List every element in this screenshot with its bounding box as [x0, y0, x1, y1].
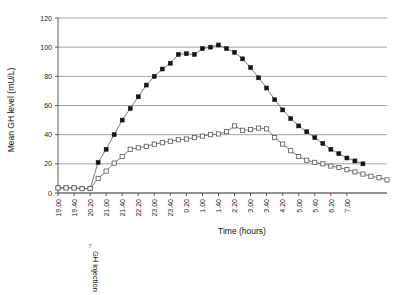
x-axis-tick-labels: 19.0019.4020.2021.0021.4022.2023.0023.40… — [55, 193, 351, 217]
y-tick-label: 0 — [48, 190, 52, 197]
data-point-open-squares — [240, 128, 244, 132]
data-point-filled-squares — [152, 74, 156, 78]
data-point-filled-squares — [200, 47, 204, 51]
data-point-open-squares — [289, 149, 293, 153]
x-tick-label: 2.20 — [231, 199, 238, 213]
data-point-open-squares — [176, 138, 180, 142]
gh-level-chart: 020406080100120 19.0019.4020.2021.0021.4… — [0, 0, 404, 295]
y-tick-label: 60 — [44, 102, 52, 109]
data-point-open-squares — [160, 141, 164, 145]
x-tick-label: 19.00 — [55, 199, 62, 217]
gh-injection-arrow-icon: ↑ — [88, 241, 92, 250]
data-point-filled-squares — [96, 160, 100, 164]
x-tick-label: 7.00 — [344, 199, 351, 213]
data-point-open-squares — [321, 162, 325, 166]
data-point-open-squares — [192, 135, 196, 139]
y-axis-tick-labels: 020406080100120 — [40, 15, 58, 197]
x-tick-label: 1.40 — [215, 199, 222, 213]
data-point-open-squares — [208, 133, 212, 137]
x-tick-label: 23.00 — [151, 199, 158, 217]
data-point-filled-squares — [136, 95, 140, 99]
data-point-filled-squares — [321, 141, 325, 145]
data-point-filled-squares — [345, 156, 349, 160]
data-point-open-squares — [136, 146, 140, 150]
x-tick-label: 1.00 — [199, 199, 206, 213]
x-tick-label: 3.00 — [247, 199, 254, 213]
x-tick-label: 20.20 — [87, 199, 94, 217]
data-point-filled-squares — [361, 162, 365, 166]
gh-injection-label: GH injection — [91, 251, 100, 292]
data-point-filled-squares — [265, 86, 269, 90]
data-point-filled-squares — [128, 106, 132, 110]
data-point-filled-squares — [353, 159, 357, 163]
data-point-open-squares — [305, 158, 309, 162]
data-point-open-squares — [72, 186, 76, 190]
data-point-open-squares — [345, 168, 349, 172]
y-tick-label: 80 — [44, 73, 52, 80]
x-tick-label: 0.20 — [183, 199, 190, 213]
data-point-filled-squares — [233, 50, 237, 54]
data-point-open-squares — [257, 126, 261, 130]
data-point-filled-squares — [289, 117, 293, 121]
data-point-open-squares — [361, 172, 365, 176]
data-point-open-squares — [200, 134, 204, 138]
data-point-open-squares — [168, 139, 172, 143]
data-point-open-squares — [56, 186, 60, 190]
data-point-open-squares — [104, 169, 108, 173]
data-point-open-squares — [369, 174, 373, 178]
data-point-open-squares — [96, 176, 100, 180]
y-tick-label: 120 — [40, 15, 52, 22]
data-point-open-squares — [232, 124, 236, 128]
data-point-filled-squares — [112, 133, 116, 137]
data-point-open-squares — [128, 147, 132, 151]
x-tick-label: 3.40 — [263, 199, 270, 213]
data-point-filled-squares — [160, 67, 164, 71]
y-axis-title: Mean GH level (mU/L) — [6, 68, 16, 153]
data-point-filled-squares — [192, 52, 196, 56]
series-line-open-squares — [58, 126, 387, 189]
data-point-filled-squares — [257, 76, 261, 80]
data-point-filled-squares — [249, 66, 253, 70]
y-tick-label: 100 — [40, 44, 52, 51]
data-point-filled-squares — [297, 124, 301, 128]
y-tick-label: 40 — [44, 131, 52, 138]
x-tick-label: 22.20 — [135, 199, 142, 217]
x-tick-label: 19.40 — [71, 199, 78, 217]
data-point-filled-squares — [144, 83, 148, 87]
data-series-layer — [56, 43, 389, 191]
data-point-open-squares — [297, 154, 301, 158]
data-point-filled-squares — [208, 45, 212, 49]
data-point-open-squares — [152, 142, 156, 146]
data-point-open-squares — [216, 132, 220, 136]
data-point-filled-squares — [305, 130, 309, 134]
data-point-filled-squares — [241, 57, 245, 61]
data-point-open-squares — [385, 178, 389, 182]
data-point-filled-squares — [281, 108, 285, 112]
x-tick-label: 21.40 — [119, 199, 126, 217]
x-tick-label: 5.40 — [312, 199, 319, 213]
data-point-filled-squares — [104, 147, 108, 151]
data-point-open-squares — [184, 137, 188, 141]
x-tick-label: 6.20 — [328, 199, 335, 213]
data-point-open-squares — [112, 161, 116, 165]
data-point-open-squares — [120, 154, 124, 158]
data-point-filled-squares — [225, 47, 229, 51]
data-point-open-squares — [224, 130, 228, 134]
y-tick-label: 20 — [44, 160, 52, 167]
data-point-open-squares — [64, 186, 68, 190]
data-point-filled-squares — [337, 152, 341, 156]
data-point-open-squares — [80, 187, 84, 191]
data-point-open-squares — [337, 165, 341, 169]
x-tick-label: 23.40 — [167, 199, 174, 217]
x-tick-label: 5.00 — [296, 199, 303, 213]
x-tick-label: 4.20 — [279, 199, 286, 213]
data-point-filled-squares — [176, 52, 180, 56]
data-point-filled-squares — [273, 98, 277, 102]
x-axis-title: Time (hours) — [218, 226, 266, 236]
data-point-filled-squares — [313, 136, 317, 140]
data-point-open-squares — [377, 176, 381, 180]
data-point-filled-squares — [168, 61, 172, 65]
data-point-filled-squares — [120, 118, 124, 122]
data-point-open-squares — [353, 170, 357, 174]
chart-canvas: 020406080100120 19.0019.4020.2021.0021.4… — [0, 0, 404, 295]
